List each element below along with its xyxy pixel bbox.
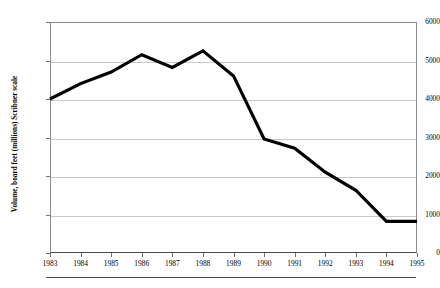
y-axis-tick-label: 6000 xyxy=(400,18,440,25)
y-axis-tick xyxy=(46,176,50,177)
x-axis-tick xyxy=(142,253,143,257)
x-axis-tick-label: 1988 xyxy=(186,260,220,267)
x-axis-tick-label: 1983 xyxy=(33,260,67,267)
y-axis-tick-label: 3000 xyxy=(400,134,440,141)
x-axis-tick-label: 1992 xyxy=(308,260,342,267)
x-axis-tick xyxy=(295,253,296,257)
y-axis-tick xyxy=(46,61,50,62)
gridline-y xyxy=(51,100,416,101)
y-axis-title: Volume, board feet (millions) Scribner s… xyxy=(0,0,22,288)
x-axis-tick xyxy=(172,253,173,257)
footer-rule xyxy=(46,277,416,278)
x-axis-tick-label: 1984 xyxy=(64,260,98,267)
x-axis-tick xyxy=(264,253,265,257)
chart-figure: Volume, board feet (millions) Scribner s… xyxy=(0,0,440,288)
y-axis-tick xyxy=(46,22,50,23)
y-axis-title-label: Volume, board feet (millions) Scribner s… xyxy=(11,76,19,212)
y-axis-tick-label: 5000 xyxy=(400,57,440,64)
x-axis-tick-label: 1991 xyxy=(278,260,312,267)
x-axis-tick xyxy=(81,253,82,257)
x-axis-tick xyxy=(203,253,204,257)
x-axis-tick-label: 1985 xyxy=(94,260,128,267)
plot-area xyxy=(50,22,417,253)
x-axis-tick-label: 1987 xyxy=(155,260,189,267)
y-axis-tick-label: 1000 xyxy=(400,211,440,218)
x-axis-tick xyxy=(50,253,51,257)
y-axis-tick-label: 0 xyxy=(400,249,440,256)
y-axis-tick-label: 4000 xyxy=(400,95,440,102)
x-axis-tick xyxy=(386,253,387,257)
x-axis-tick-label: 1994 xyxy=(369,260,403,267)
x-axis-tick xyxy=(417,253,418,257)
y-axis-tick xyxy=(46,138,50,139)
gridline-y xyxy=(51,62,416,63)
gridline-y xyxy=(51,139,416,140)
y-axis-tick-label: 2000 xyxy=(400,172,440,179)
x-axis-tick-label: 1995 xyxy=(400,260,434,267)
gridline-y xyxy=(51,216,416,217)
x-axis-tick xyxy=(234,253,235,257)
gridline-y xyxy=(51,177,416,178)
x-axis-tick xyxy=(356,253,357,257)
x-axis-tick xyxy=(325,253,326,257)
x-axis-tick-label: 1986 xyxy=(125,260,159,267)
x-axis-tick-label: 1990 xyxy=(247,260,281,267)
x-axis-tick-label: 1989 xyxy=(217,260,251,267)
y-axis-tick xyxy=(46,215,50,216)
x-axis-tick xyxy=(111,253,112,257)
y-axis-tick xyxy=(46,99,50,100)
x-axis-tick-label: 1993 xyxy=(339,260,373,267)
